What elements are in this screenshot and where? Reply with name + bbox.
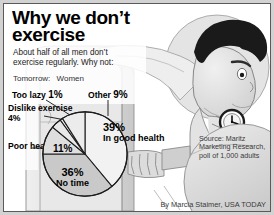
byline: By Marcia Staimer, USA TODAY bbox=[4, 200, 266, 209]
pie-label-in-good-health: 39% In good health bbox=[103, 122, 165, 144]
snapshot-graphic: Why we don’t exercise About half of all … bbox=[0, 0, 274, 215]
pie-label-no-time-value: 36% bbox=[56, 167, 89, 177]
source-note: Source: Maritz Marketing Research, poll … bbox=[199, 135, 271, 160]
pie-label-in-good-health-value: 39% bbox=[103, 122, 165, 132]
graphic-plate: Why we don’t exercise About half of all … bbox=[3, 3, 271, 212]
pie-label-no-time: 36% No time bbox=[56, 167, 89, 189]
pie-label-poor-health-value: 11% bbox=[53, 143, 72, 154]
pie-label-in-good-health-text: In good health bbox=[103, 133, 165, 143]
pie-label-no-time-text: No time bbox=[56, 178, 89, 188]
